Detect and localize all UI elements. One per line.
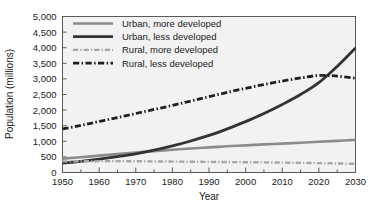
x-tick-label: 2030 (345, 176, 366, 187)
y-tick-label: 5,000 (33, 11, 57, 22)
y-tick-label: 4,000 (33, 42, 57, 53)
x-axis-title: Year (199, 191, 220, 202)
legend-label-2: Rural, more developed (122, 44, 218, 55)
y-tick-label: 2,000 (33, 105, 57, 116)
x-tick-label: 1960 (89, 176, 110, 187)
y-tick-label: 500 (41, 151, 57, 162)
y-tick-label: 3,000 (33, 73, 57, 84)
y-axis-title: Population (millions) (4, 49, 15, 139)
legend-label-0: Urban, more developed (122, 18, 221, 29)
x-tick-label: 2020 (308, 176, 329, 187)
y-tick-label: 2,500 (33, 89, 57, 100)
legend-label-1: Urban, less developed (122, 31, 217, 42)
y-tick-label: 3,500 (33, 58, 57, 69)
x-tick-label: 1990 (198, 176, 219, 187)
x-tick-label: 1950 (52, 176, 73, 187)
x-tick-label: 1980 (162, 176, 183, 187)
x-tick-label: 1970 (125, 176, 146, 187)
y-axis-tick-labels: 05001,0001,5002,0002,5003,0003,5004,0004… (33, 11, 57, 178)
y-tick-label: 1,500 (33, 120, 57, 131)
y-tick-label: 4,500 (33, 27, 57, 38)
legend-label-3: Rural, less developed (122, 58, 213, 69)
x-tick-label: 2010 (272, 176, 293, 187)
y-tick-label: 1,000 (33, 136, 57, 147)
chart-canvas: 05001,0001,5002,0002,5003,0003,5004,0004… (0, 0, 368, 208)
x-axis-tick-labels: 195019601970198019902000201020202030 (52, 176, 366, 187)
population-line-chart: 05001,0001,5002,0002,5003,0003,5004,0004… (0, 0, 368, 208)
x-tick-label: 2000 (235, 176, 256, 187)
